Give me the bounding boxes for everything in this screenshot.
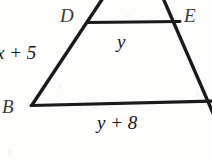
scan-speck bbox=[8, 150, 12, 155]
scan-speck bbox=[196, 92, 199, 96]
scan-speck bbox=[126, 14, 130, 17]
midsegment-measure-label: y bbox=[117, 32, 125, 51]
left-side-measure-label: x + 5 bbox=[0, 43, 36, 62]
base-bc-line bbox=[31, 101, 212, 106]
figure-canvas bbox=[0, 0, 212, 162]
vertex-label-e: E bbox=[184, 6, 196, 25]
base-measure-label: y + 8 bbox=[97, 113, 137, 132]
geometry-figure: D E B x + 5 y y + 8 bbox=[0, 0, 212, 162]
vertex-label-d: D bbox=[60, 6, 74, 25]
midsegment-de-line bbox=[87, 22, 180, 23]
vertex-label-b: B bbox=[2, 97, 14, 116]
scan-speck bbox=[58, 86, 61, 89]
